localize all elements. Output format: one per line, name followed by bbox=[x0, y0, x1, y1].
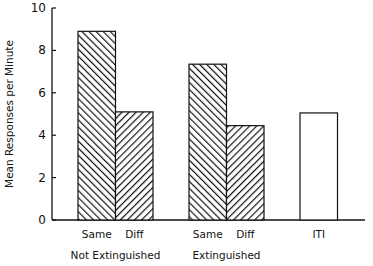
x-group-label: Not Extinguished bbox=[71, 249, 161, 261]
y-axis-title: Mean Responses per Minute bbox=[3, 40, 15, 188]
y-tick-label: 0 bbox=[38, 213, 46, 227]
x-category-label: ITI bbox=[312, 228, 325, 240]
x-category-label: Diff bbox=[236, 228, 255, 240]
x-category-label: Diff bbox=[125, 228, 144, 240]
bar-not-extinguished-same bbox=[78, 31, 116, 220]
y-tick-label: 8 bbox=[38, 43, 46, 57]
bar-extinguished-same bbox=[189, 64, 227, 220]
bar-extinguished-diff bbox=[227, 126, 265, 220]
x-category-label: Same bbox=[82, 228, 112, 240]
bars bbox=[78, 31, 338, 220]
x-axis-labels: SameDiffNot ExtinguishedSameDiffExtingui… bbox=[71, 228, 325, 261]
y-tick-label: 6 bbox=[38, 86, 46, 100]
bar-not-extinguished-diff bbox=[116, 112, 154, 220]
bar-iti bbox=[300, 113, 338, 220]
y-tick-label: 2 bbox=[38, 171, 46, 185]
y-tick-label: 4 bbox=[38, 128, 46, 142]
x-category-label: Same bbox=[193, 228, 223, 240]
y-tick-label: 10 bbox=[31, 1, 46, 15]
x-group-label: Extinguished bbox=[192, 249, 260, 261]
bar-chart: 0246810 SameDiffNot ExtinguishedSameDiff… bbox=[0, 0, 373, 266]
